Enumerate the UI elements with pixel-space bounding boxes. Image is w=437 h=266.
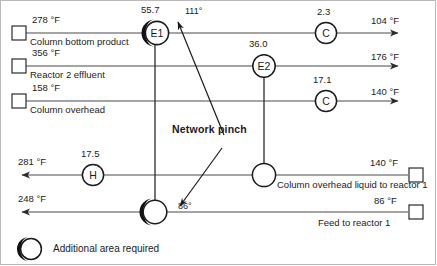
cooler-2-duty: 17.1 <box>313 75 332 85</box>
legend-circle <box>21 239 42 260</box>
cold-stream-2-name: Feed to reactor 1 <box>318 218 390 228</box>
cold-stream-1-supply-temp: 140 °F <box>370 158 398 168</box>
e2-label: E2 <box>258 60 271 72</box>
exchanger-cold-2-circle <box>143 200 167 224</box>
hot-stream-2-supply-temp: 356 °F <box>32 48 60 58</box>
hot-stream-3-supply-terminal <box>12 94 26 108</box>
cold-stream-2-supply-terminal <box>409 205 423 219</box>
legend-text: Additional area required <box>53 244 159 254</box>
cold-stream-2-target-temp: 248 °F <box>18 194 46 204</box>
cooler-1-duty: 2.3 <box>317 7 330 17</box>
e1-label: E1 <box>151 27 164 39</box>
pinch-upper-annotation: 111° <box>185 7 202 16</box>
hot-stream-1-supply-terminal <box>12 26 26 40</box>
hot-stream-2-name: Reactor 2 effluent <box>30 70 105 80</box>
heater-1-label: H <box>89 169 97 181</box>
hot-stream-3-name: Column overhead <box>30 105 105 115</box>
pinch-arrow-lower <box>180 148 222 206</box>
hot-stream-3-target-temp: 140 °F <box>371 87 399 97</box>
cold-stream-2-supply-temp: 86 °F <box>374 196 397 206</box>
cold-stream-1-target-temp: 281 °F <box>18 157 46 167</box>
unit-exchanger-cold-2[interactable] <box>139 198 166 225</box>
unit-e2[interactable]: E2 <box>253 55 275 77</box>
unit-exchanger-cold-1[interactable] <box>252 163 275 186</box>
heater-1-duty: 17.5 <box>81 149 100 159</box>
network-pinch-label: Network pinch <box>172 124 247 135</box>
cooler-1-label: C <box>322 27 330 39</box>
e2-duty: 36.0 <box>249 39 268 49</box>
hot-stream-1-name: Column bottom product <box>30 37 129 47</box>
heat-exchanger-network-diagram: E1 E2 C C H <box>0 0 437 266</box>
hot-stream-1-supply-temp: 278 °F <box>32 15 60 25</box>
unit-cooler-2[interactable]: C <box>315 90 336 111</box>
unit-heater-1[interactable]: H <box>82 164 103 185</box>
unit-cooler-1[interactable]: C <box>315 22 336 43</box>
exchanger-cold-1-circle <box>252 163 275 186</box>
hot-stream-1-target-temp: 104 °F <box>371 16 399 26</box>
legend-symbol <box>17 237 41 261</box>
unit-e1[interactable]: E1 <box>142 20 169 47</box>
pinch-lower-annotation: 86° <box>178 202 192 211</box>
cooler-2-label: C <box>322 95 330 107</box>
e1-duty: 55.7 <box>141 5 160 15</box>
pinch-arrow-upper <box>178 22 224 135</box>
cold-stream-1-name: Column overhead liquid to reactor 1 <box>277 180 428 190</box>
hot-stream-2-target-temp: 176 °F <box>371 52 399 62</box>
hot-stream-2-supply-terminal <box>12 59 26 73</box>
hot-stream-3-supply-temp: 158 °F <box>32 83 60 93</box>
